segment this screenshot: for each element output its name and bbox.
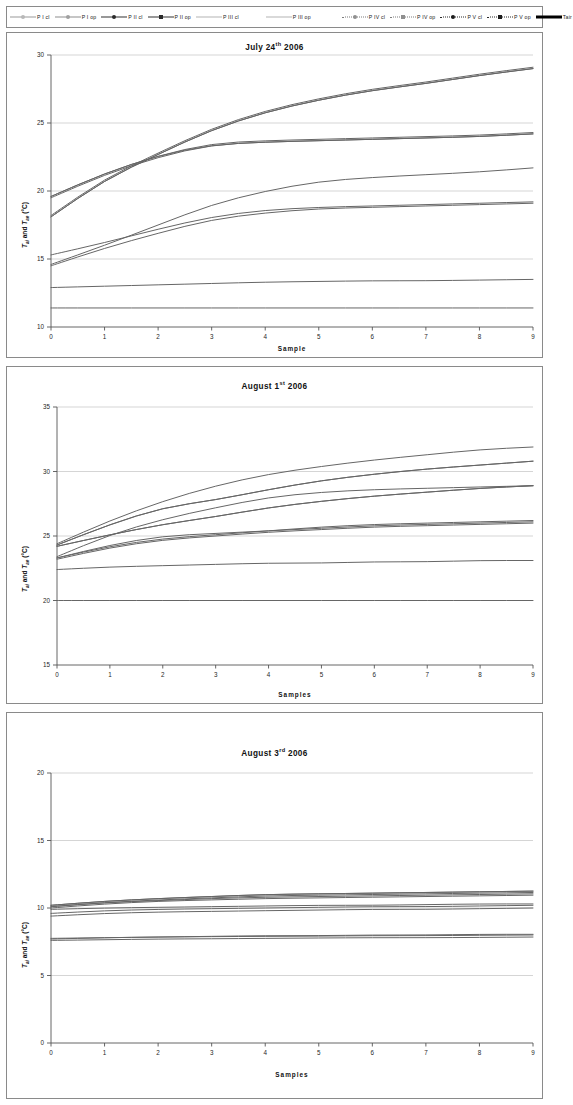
legend-swatch — [487, 12, 513, 22]
series-p-ii-op — [51, 69, 533, 217]
plot-area-wrapper: 15202530350123456789 — [57, 407, 533, 665]
x-tick-label: 6 — [373, 671, 377, 678]
series-line — [51, 279, 533, 287]
series-p-iv-op — [51, 202, 533, 255]
legend-line — [536, 16, 562, 19]
legend-swatch — [536, 12, 562, 22]
legend-label: P IV op — [416, 14, 436, 20]
legend-marker-square-icon — [498, 15, 502, 19]
x-tick-label: 9 — [531, 333, 535, 340]
x-tick-label: 5 — [317, 1049, 321, 1056]
series-p-iv-cl — [57, 522, 533, 558]
legend-item-p-iii-cl: P III cl — [196, 12, 240, 22]
x-tick-label: 9 — [531, 1049, 535, 1056]
chart-title-main: August 1 — [242, 382, 280, 391]
series-line — [51, 134, 533, 197]
chart-title-year: 2006 — [281, 43, 303, 52]
x-tick-label: 9 — [531, 671, 535, 678]
legend-marker-circle-icon — [66, 15, 70, 19]
series-line — [57, 486, 533, 557]
x-tick-label: 1 — [103, 1049, 107, 1056]
legend-label: P II op — [174, 14, 192, 20]
series-p-i-op — [51, 134, 533, 198]
y-axis-label: Tai and Tae (°C) — [21, 922, 30, 968]
y-tick-label: 10 — [37, 323, 45, 330]
x-tick-label: 1 — [108, 671, 112, 678]
series-p-i-cl — [57, 461, 533, 545]
series-p-iii-cl — [51, 134, 533, 197]
series-p-iv-op — [51, 908, 533, 916]
x-tick-label: 1 — [103, 333, 107, 340]
series-line — [51, 69, 533, 217]
chart-panel-august-1: August 1st 2006 Tai and Tae (°C) 1520253… — [6, 366, 543, 704]
series-line — [51, 134, 533, 198]
legend-label: P II cl — [127, 14, 143, 20]
legend-swatch — [55, 12, 81, 22]
x-tick-label: 4 — [267, 671, 271, 678]
legend-label: P V cl — [466, 14, 483, 20]
x-tick-label: 5 — [317, 333, 321, 340]
y-tick-label: 25 — [43, 532, 51, 539]
y-tick-label: 20 — [37, 187, 45, 194]
x-tick-label: 2 — [156, 333, 160, 340]
x-tick-label: 7 — [424, 1049, 428, 1056]
legend-item-p-v-cl: P V cl — [440, 12, 483, 22]
x-tick-label: 0 — [49, 1049, 53, 1056]
y-tick-label: 15 — [37, 255, 45, 262]
x-tick-label: 2 — [156, 1049, 160, 1056]
legend-swatch — [10, 12, 36, 22]
y-tick-label: 20 — [43, 597, 51, 604]
legend-swatch — [148, 12, 174, 22]
x-tick-label: 3 — [210, 333, 214, 340]
legend-label: P V op — [513, 14, 532, 20]
legend-swatch — [390, 12, 416, 22]
x-tick-label: 3 — [210, 1049, 214, 1056]
x-tick-label: 4 — [263, 1049, 267, 1056]
series-p-iii-op — [51, 69, 533, 217]
y-tick-label: 10 — [37, 904, 45, 911]
legend-swatch — [266, 12, 292, 22]
plot-svg: 051015200123456789 — [51, 773, 533, 1043]
series-line — [57, 461, 533, 545]
chart-title: July 24th 2006 — [7, 41, 542, 52]
legend-row: P I clP I opP II clP II opP III clP III … — [7, 7, 542, 27]
chart-title: August 3rd 2006 — [7, 747, 542, 758]
x-axis-label: Samples — [57, 691, 533, 698]
y-tick-label: 25 — [37, 119, 45, 126]
legend-marker-circle-icon — [451, 15, 455, 19]
legend-item-p-v-op: P V op — [487, 12, 532, 22]
series-line — [57, 521, 533, 558]
x-tick-label: 8 — [478, 671, 482, 678]
legend-marker-square-icon — [159, 15, 163, 19]
chart-panel-august-3: August 3rd 2006 Tai and Tae (°C) 0510152… — [6, 712, 543, 1099]
y-tick-label: 5 — [40, 972, 44, 979]
plot-area-wrapper: 051015200123456789 — [51, 773, 533, 1043]
x-tick-label: 8 — [478, 1049, 482, 1056]
y-tick-label: 30 — [43, 468, 51, 475]
x-tick-label: 4 — [263, 333, 267, 340]
legend-label: P IV cl — [368, 14, 386, 20]
legend-label: P III cl — [222, 14, 240, 20]
y-axis-label: Tai and Tae (°C) — [21, 546, 30, 592]
legend-item-tair: Tair — [536, 12, 573, 22]
legend-item-p-i-cl: P I cl — [10, 12, 51, 22]
chart-title-main: August 3 — [241, 749, 279, 758]
x-tick-label: 0 — [55, 671, 59, 678]
series-p-iv-cl — [51, 168, 533, 265]
x-tick-label: 5 — [320, 671, 324, 678]
legend-item-p-i-op: P I op — [55, 12, 98, 22]
legend-swatch — [196, 12, 222, 22]
chart-panel-july-24: July 24th 2006 Tai and Tae (°C) 10152025… — [6, 32, 543, 358]
legend-item-p-ii-op: P II op — [148, 12, 192, 22]
plot-area-wrapper: 10152025300123456789 — [51, 55, 533, 327]
y-tick-label: 15 — [43, 661, 51, 668]
chart-title-year: 2006 — [285, 749, 307, 758]
x-tick-label: 0 — [49, 333, 53, 340]
legend-marker-circle-icon — [112, 15, 116, 19]
legend-swatch — [440, 12, 466, 22]
x-tick-label: 7 — [424, 333, 428, 340]
legend-label: Tair — [562, 14, 573, 20]
legend-swatch — [342, 12, 368, 22]
x-tick-label: 7 — [425, 671, 429, 678]
